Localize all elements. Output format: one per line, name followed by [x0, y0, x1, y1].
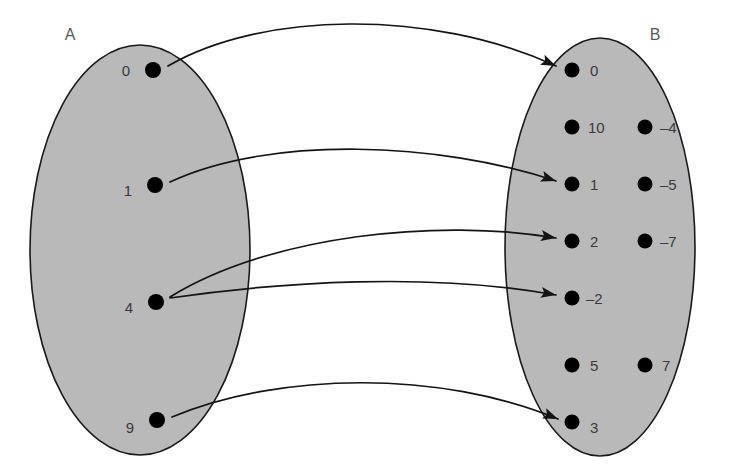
element-label: 10 — [588, 119, 605, 136]
element-label: 9 — [126, 419, 134, 436]
element-label: –7 — [660, 233, 677, 250]
mapping-arrow-0-to-0 — [168, 24, 558, 71]
element-dot[interactable] — [638, 177, 653, 192]
element-dot[interactable] — [145, 62, 161, 78]
element-label: –4 — [660, 119, 677, 136]
mapping-diagram: A B 0149 010–41–52–7–2573 — [0, 0, 730, 469]
element-label: 3 — [590, 419, 598, 436]
mapping-arrow-9-to-3 — [172, 383, 560, 424]
element-dot[interactable] — [565, 358, 580, 373]
element-label: 1 — [590, 176, 598, 193]
element-dot[interactable] — [638, 358, 653, 373]
set-a-ellipse — [30, 45, 250, 455]
element-dot[interactable] — [565, 177, 580, 192]
element-dot[interactable] — [638, 234, 653, 249]
arrow-curve — [172, 383, 558, 419]
element-dot[interactable] — [147, 177, 163, 193]
element-label: 4 — [125, 299, 133, 316]
element-dot[interactable] — [565, 234, 580, 249]
element-label: 0 — [590, 62, 598, 79]
element-dot[interactable] — [565, 120, 580, 135]
mapping-svg: A B 0149 010–41–52–7–2573 — [0, 0, 730, 469]
element-dot[interactable] — [565, 291, 580, 306]
element-dot[interactable] — [149, 412, 165, 428]
element-label: 2 — [590, 233, 598, 250]
element-label: 5 — [590, 357, 598, 374]
element-dot[interactable] — [638, 120, 653, 135]
element-label: 0 — [122, 62, 130, 79]
element-dot[interactable] — [565, 415, 580, 430]
element-label: 1 — [124, 182, 132, 199]
element-label: –5 — [660, 176, 677, 193]
set-b-name-label: B — [650, 26, 661, 43]
element-dot[interactable] — [148, 294, 164, 310]
set-a-name-label: A — [65, 26, 76, 43]
element-label: 7 — [662, 357, 670, 374]
element-label: –2 — [586, 290, 603, 307]
element-dot[interactable] — [565, 63, 580, 78]
arrow-curve — [168, 24, 556, 66]
